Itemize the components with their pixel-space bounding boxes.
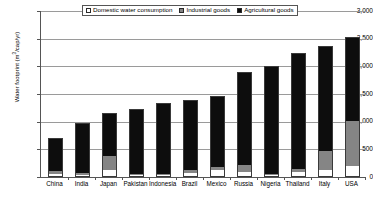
x-tick-label: Mexico [203,180,230,187]
bar-group [42,11,366,177]
legend-item[interactable]: Domestic water consumption [86,7,172,13]
bar-column[interactable] [312,11,339,177]
x-tick-label: Italy [311,180,338,187]
bar-segment-domestic [103,170,116,176]
bar-segment-industrial [319,151,332,170]
stacked-bar[interactable] [210,96,225,177]
bar-column[interactable] [231,11,258,177]
bar-column[interactable] [42,11,69,177]
bar-segment-agricultural [76,124,89,173]
y-axis-title-tail: /cap/yr) [14,32,20,52]
bar-segment-domestic [76,175,89,176]
bar-segment-agricultural [211,97,224,168]
legend-item[interactable]: Agricultural goods [237,7,294,13]
bar-segment-industrial [346,121,359,166]
bar-segment-agricultural [346,38,359,121]
stacked-bar[interactable] [345,37,360,177]
x-tick-label: Indonesia [149,180,176,187]
bar-column[interactable] [96,11,123,177]
x-tick-mark [365,177,366,180]
bar-segment-domestic [157,175,170,176]
legend-item-label: Industrial goods [186,7,230,13]
stacked-bar[interactable] [291,53,306,178]
x-tick-label: Russia [230,180,257,187]
bar-column[interactable] [339,11,366,177]
bar-column[interactable] [69,11,96,177]
industrial-swatch-icon [179,8,184,13]
chart-legend: Domestic water consumptionIndustrial goo… [82,5,298,16]
x-tick-label: Japan [95,180,122,187]
stacked-bar[interactable] [156,103,171,177]
bar-segment-domestic [238,172,251,176]
y-axis-title-exponent: 3 [12,52,17,55]
stacked-bar[interactable] [102,113,117,177]
bar-segment-domestic [130,175,143,176]
stacked-bar[interactable] [48,138,63,177]
x-axis-labels: ChinaIndiaJapanPakistanIndonesiaBrazilMe… [41,180,365,187]
bar-column[interactable] [177,11,204,177]
bar-segment-agricultural [184,101,197,170]
stacked-bar[interactable] [237,72,252,177]
x-tick-label: Thailand [284,180,311,187]
bar-segment-domestic [265,175,278,176]
bar-column[interactable] [285,11,312,177]
stacked-bar[interactable] [129,109,144,177]
bar-segment-agricultural [103,114,116,155]
bar-column[interactable] [258,11,285,177]
bar-segment-domestic [211,170,224,176]
bar-segment-domestic [292,172,305,176]
water-footprint-chart: Water footprint (m3/cap/yr) 05001,0001,5… [0,0,373,200]
legend-item-label: Domestic water consumption [93,7,172,13]
agricultural-swatch-icon [237,8,242,13]
legend-item-label: Agricultural goods [244,7,294,13]
bar-segment-agricultural [49,139,62,170]
bar-segment-agricultural [238,73,251,165]
bar-segment-agricultural [292,54,305,170]
bar-segment-agricultural [319,47,332,152]
bar-segment-domestic [49,174,62,176]
stacked-bar[interactable] [318,46,333,177]
bar-column[interactable] [150,11,177,177]
x-tick-label: India [68,180,95,187]
legend-item[interactable]: Industrial goods [179,7,230,13]
bar-column[interactable] [204,11,231,177]
bar-segment-industrial [238,165,251,172]
x-tick-label: Pakistan [122,180,149,187]
x-tick-label: USA [338,180,365,187]
x-tick-label: Brazil [176,180,203,187]
stacked-bar[interactable] [75,123,90,177]
stacked-bar[interactable] [183,100,198,177]
y-axis-title-main: Water footprint (m [14,54,20,102]
bar-segment-domestic [184,173,197,177]
y-axis-title: Water footprint (m3/cap/yr) [11,7,21,127]
bar-segment-domestic [346,166,359,176]
bar-segment-agricultural [265,67,278,175]
bar-column[interactable] [123,11,150,177]
bar-segment-industrial [103,156,116,170]
domestic-swatch-icon [86,8,91,13]
bar-segment-domestic [319,170,332,176]
x-tick-label: China [41,180,68,187]
plot-area [40,11,366,178]
bar-segment-agricultural [157,104,170,173]
bar-segment-agricultural [130,110,143,173]
x-tick-label: Nigeria [257,180,284,187]
stacked-bar[interactable] [264,66,279,177]
